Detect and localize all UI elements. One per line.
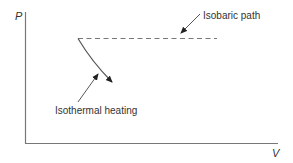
pv-diagram-canvas <box>0 0 293 163</box>
isothermal-leader-arrow <box>78 74 98 102</box>
isothermal-curve <box>78 39 112 83</box>
isothermal-heating-label: Isothermal heating <box>55 106 137 116</box>
x-axis-label: V <box>272 148 279 159</box>
pv-diagram: P V Isobaric path Isothermal heating <box>0 0 293 163</box>
isobaric-path-label: Isobaric path <box>203 11 260 21</box>
y-axis-label: P <box>15 11 22 22</box>
isobaric-leader-arrow <box>181 14 200 33</box>
